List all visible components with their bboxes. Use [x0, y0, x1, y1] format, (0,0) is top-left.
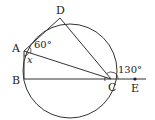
point-E-dot: [133, 77, 136, 80]
label-D: D: [56, 4, 65, 17]
label-B: B: [12, 74, 20, 87]
angle-label-130: 130°: [118, 64, 142, 75]
angle-label-x: x: [27, 54, 33, 65]
segment-AC: [24, 51, 111, 79]
label-C: C: [108, 81, 116, 94]
angle-label-60: 60°: [34, 39, 52, 50]
geometry-diagram: D A B C E 60° x 130°: [0, 0, 155, 120]
label-E: E: [131, 82, 139, 95]
label-A: A: [11, 42, 21, 55]
